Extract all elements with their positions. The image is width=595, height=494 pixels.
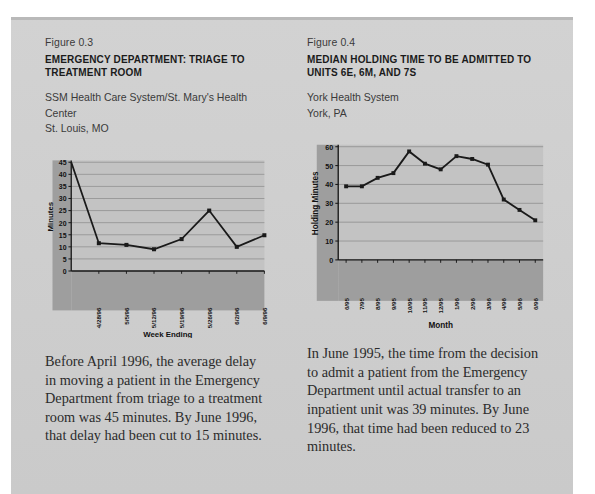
svg-text:4/28/96: 4/28/96 xyxy=(95,306,102,327)
svg-text:6/95: 6/95 xyxy=(343,297,350,310)
figure-column-left: Figure 0.3 EMERGENCY DEPARTMENT: TRIAGE … xyxy=(11,17,292,494)
figure-source-left-line2: St. Louis, MO xyxy=(45,121,270,137)
figure-number-right: Figure 0.4 xyxy=(307,36,549,48)
svg-text:Holding Minutes: Holding Minutes xyxy=(311,171,320,235)
svg-text:1/96: 1/96 xyxy=(453,297,460,310)
svg-text:5: 5 xyxy=(63,255,67,262)
svg-text:6/9/96: 6/9/96 xyxy=(261,307,268,325)
svg-text:5/12/96: 5/12/96 xyxy=(150,306,157,327)
figure-column-right: Figure 0.4 MEDIAN HOLDING TIME TO BE ADM… xyxy=(292,17,573,494)
svg-text:30: 30 xyxy=(325,199,333,208)
svg-text:5/26/96: 5/26/96 xyxy=(206,306,213,327)
svg-text:20: 20 xyxy=(59,219,67,226)
svg-text:6/96: 6/96 xyxy=(532,297,539,310)
svg-text:6/2/96: 6/2/96 xyxy=(233,307,240,325)
svg-text:3/96: 3/96 xyxy=(485,297,492,310)
chart-triage-to-treatment: 0510152025303540454/28/965/5/965/12/965/… xyxy=(45,151,270,339)
svg-text:10: 10 xyxy=(325,237,333,246)
figure-source-right-line1: York Health System xyxy=(307,90,549,106)
svg-text:12/95: 12/95 xyxy=(437,297,444,313)
svg-text:25: 25 xyxy=(59,207,67,214)
svg-text:5/5/96: 5/5/96 xyxy=(123,307,130,325)
svg-text:9/95: 9/95 xyxy=(390,297,397,310)
svg-text:10/95: 10/95 xyxy=(406,297,413,313)
svg-text:20: 20 xyxy=(325,218,333,227)
svg-text:10: 10 xyxy=(59,243,67,250)
svg-text:60: 60 xyxy=(325,143,333,152)
svg-text:40: 40 xyxy=(325,180,333,189)
svg-text:30: 30 xyxy=(59,195,67,202)
figure-source-left-line1: SSM Health Care System/St. Mary's Health… xyxy=(45,90,270,121)
svg-text:50: 50 xyxy=(325,162,333,171)
figure-title-right-line2: UNITS 6E, 6M, AND 7S xyxy=(307,66,549,79)
svg-text:40: 40 xyxy=(59,171,67,178)
svg-text:45: 45 xyxy=(59,159,67,166)
figure-title-right-line1: MEDIAN HOLDING TIME TO BE ADMITTED TO xyxy=(307,53,549,66)
svg-text:0: 0 xyxy=(63,267,67,274)
svg-text:5/19/96: 5/19/96 xyxy=(178,306,185,327)
svg-text:15: 15 xyxy=(59,231,67,238)
svg-text:Minutes: Minutes xyxy=(46,201,55,231)
chart-median-holding-time: 01020304050606/957/958/959/9510/9511/951… xyxy=(307,135,549,330)
figure-number-left: Figure 0.3 xyxy=(45,36,270,48)
document-page: Figure 0.3 EMERGENCY DEPARTMENT: TRIAGE … xyxy=(11,17,573,494)
svg-text:2/96: 2/96 xyxy=(469,297,476,310)
figure-caption-left: Before April 1996, the average delay in … xyxy=(45,352,270,445)
figure-caption-right: In June 1995, the time from the decision… xyxy=(307,344,549,456)
svg-text:7/95: 7/95 xyxy=(358,297,365,310)
chart-svg-left: 0510152025303540454/28/965/5/965/12/965/… xyxy=(45,151,270,339)
figure-source-right-line2: York, PA xyxy=(307,106,549,122)
svg-text:35: 35 xyxy=(59,183,67,190)
chart-svg-right: 01020304050606/957/958/959/9510/9511/951… xyxy=(307,135,549,330)
svg-text:11/95: 11/95 xyxy=(421,297,428,313)
svg-text:8/95: 8/95 xyxy=(374,297,381,310)
svg-text:4/96: 4/96 xyxy=(500,297,507,310)
svg-text:0: 0 xyxy=(329,256,333,265)
svg-text:Week Ending: Week Ending xyxy=(143,329,192,338)
svg-text:5/96: 5/96 xyxy=(516,297,523,310)
two-column-layout: Figure 0.3 EMERGENCY DEPARTMENT: TRIAGE … xyxy=(11,17,573,494)
figure-title-left: EMERGENCY DEPARTMENT: TRIAGE TO TREATMEN… xyxy=(45,53,270,79)
svg-text:Month: Month xyxy=(428,321,453,330)
